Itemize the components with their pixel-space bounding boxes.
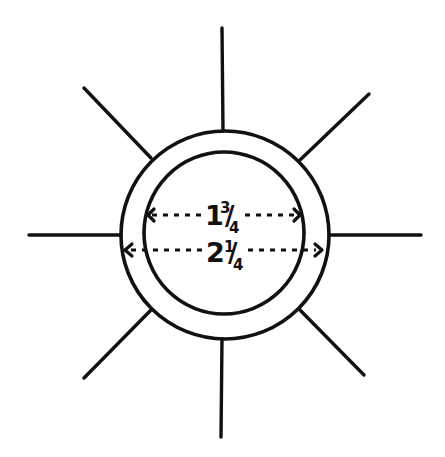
inner-circle <box>144 152 304 314</box>
outer-circle <box>121 131 329 339</box>
spoke-top-left <box>84 88 151 158</box>
spoke-top <box>222 28 223 131</box>
spoke-bottom-left <box>84 310 151 378</box>
spokes <box>29 28 421 437</box>
outer-diameter-whole: 2 <box>206 237 225 268</box>
outer-arrowhead-left <box>125 244 132 256</box>
inner-diameter-denominator: 4 <box>229 219 239 237</box>
ring-diagram: 1 3 / 4 2 1 / 4 <box>0 0 445 457</box>
outer-diameter-denominator: 4 <box>233 256 243 274</box>
outer-arrowhead-right <box>315 244 322 256</box>
spoke-bottom-right <box>299 309 364 375</box>
inner-diameter-dimension: 1 3 / 4 <box>148 199 300 237</box>
spoke-bottom <box>221 339 222 437</box>
spoke-top-right <box>300 94 369 160</box>
outer-diameter-dimension: 2 1 / 4 <box>125 237 322 274</box>
